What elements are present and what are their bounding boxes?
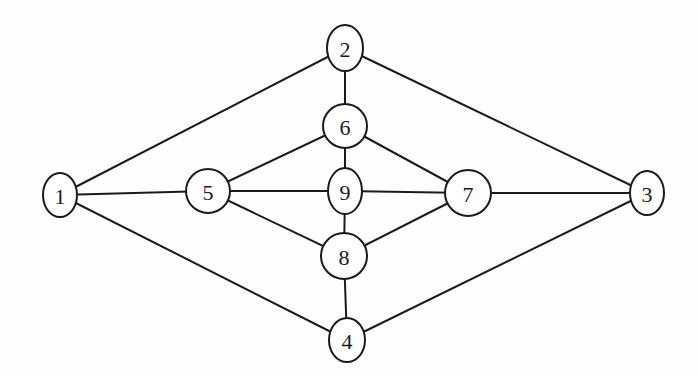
node-2: 2	[327, 25, 363, 71]
node-label: 1	[55, 184, 66, 209]
node-label: 5	[203, 180, 214, 205]
node-5: 5	[186, 169, 230, 213]
edge-4-3	[347, 193, 647, 340]
node-label: 8	[339, 245, 350, 270]
edge-2-3	[345, 48, 647, 193]
node-label: 6	[340, 115, 351, 140]
node-label: 2	[340, 37, 351, 62]
node-label: 3	[642, 182, 653, 207]
node-4: 4	[329, 318, 365, 362]
node-label: 9	[340, 180, 351, 205]
graph-svg: 123456789	[0, 0, 698, 375]
node-label: 7	[463, 182, 474, 207]
node-6: 6	[323, 104, 367, 148]
edge-1-4	[60, 195, 347, 340]
node-8: 8	[321, 233, 367, 279]
node-1: 1	[43, 173, 77, 217]
node-7: 7	[445, 170, 491, 216]
node-3: 3	[630, 171, 664, 215]
node-9: 9	[328, 168, 362, 214]
node-label: 4	[342, 329, 353, 354]
graph-diagram: 123456789	[0, 0, 698, 375]
